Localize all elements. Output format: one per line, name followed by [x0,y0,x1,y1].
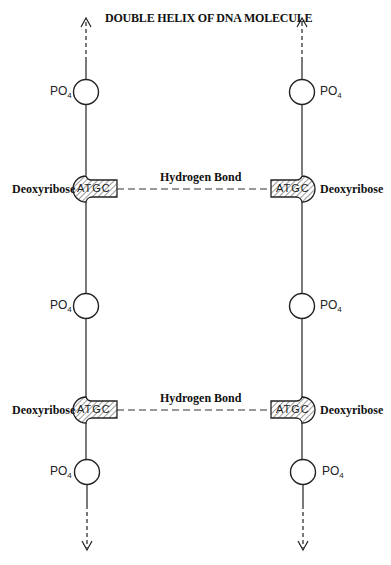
right-strand [271,18,316,550]
phosphate-label: PO4 [320,84,342,100]
base-label: ATGC [77,403,111,415]
phosphate-label: PO4 [50,464,72,480]
deoxyribose-label: Deoxyribose [320,403,383,418]
base-label: ATGC [276,182,310,194]
hydrogen-bond-label: Hydrogen Bond [160,391,241,406]
hydrogen-bond-label: Hydrogen Bond [160,170,241,185]
phosphate-circle [74,80,99,105]
phosphate-label: PO4 [320,298,342,314]
base-label: ATGC [77,182,111,194]
phosphate-circle [75,460,100,485]
phosphate-circle [290,80,315,105]
deoxyribose-label: Deoxyribose [12,182,75,197]
phosphate-label: PO4 [322,464,344,480]
diagram-title: DOUBLE HELIX OF DNA MOLECULE [105,11,285,26]
base-label: ATGC [276,403,310,415]
left-strand [73,18,117,550]
dna-diagram: DOUBLE HELIX OF DNA MOLECULE PO4 PO4 PO4… [0,0,391,565]
phosphate-circle [74,294,99,319]
phosphate-circle [291,460,316,485]
deoxyribose-label: Deoxyribose [12,403,75,418]
phosphate-label: PO4 [50,298,72,314]
phosphate-label: PO4 [50,84,72,100]
deoxyribose-label: Deoxyribose [320,182,383,197]
phosphate-circle [290,294,315,319]
